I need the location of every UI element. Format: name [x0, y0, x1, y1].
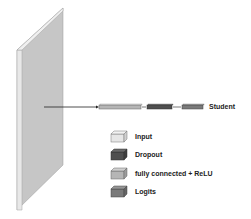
legend-swatch-dropout: [111, 149, 127, 160]
network-label: Student: [209, 103, 235, 111]
legend-swatch-fc-relu: [111, 168, 127, 179]
legend-label-dropout: Dropout: [135, 151, 162, 159]
dropout-layer: [147, 104, 173, 109]
legend-label-logits: Logits: [135, 188, 156, 196]
legend-swatch-input: [111, 131, 127, 142]
logits-layer: [182, 104, 204, 109]
input-slab: [17, 8, 63, 210]
legend-label-input: Input: [135, 133, 152, 141]
legend-label-fc-relu: fully connected + ReLU: [135, 170, 213, 178]
fc-relu-layer: [99, 104, 142, 109]
legend-swatch-logits: [111, 186, 127, 197]
